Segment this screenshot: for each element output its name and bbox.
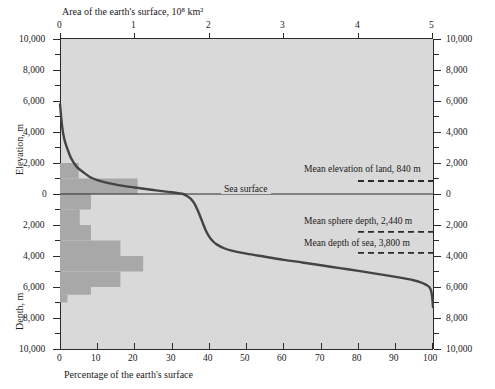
histogram-bar [60,225,91,241]
annotation-label-sea-surface: Sea surface [221,184,271,194]
histogram-bar [60,287,91,295]
annotation-label-mean-depth-of-sea: Mean depth of sea, 3,800 m [304,238,410,248]
histogram-bar [60,210,80,226]
annotation-label-mean-elevation: Mean elevation of land, 840 m [304,164,421,174]
hypsographic-curve-chart: Area of the earth's surface, 10⁸ km² 0 1… [0,0,495,389]
histogram-bar [60,194,91,210]
histogram-bar [60,272,120,288]
elevation-histogram [60,163,143,303]
histogram-bar [60,256,143,272]
histogram-bar [60,295,67,303]
histogram-bar [60,241,120,257]
chart-data-layer [0,0,495,389]
annotation-label-mean-sphere-depth: Mean sphere depth, 2,440 m [304,216,412,226]
